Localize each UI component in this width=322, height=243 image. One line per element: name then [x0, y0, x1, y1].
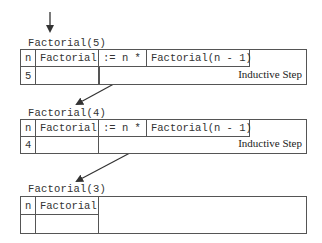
- n-value-cell: [20, 214, 36, 234]
- activation-frame: n 4 Factorial := n * Factorial(n - 1) In…: [20, 119, 307, 154]
- activation-frame: n Factorial: [20, 196, 307, 234]
- step-label: Inductive Step: [238, 68, 302, 80]
- factorial-header-cell: Factorial: [35, 196, 99, 215]
- factorial-value-cell: [35, 136, 99, 154]
- factorial-value-cell: [35, 66, 99, 85]
- factorial-header-cell: Factorial: [35, 49, 99, 67]
- n-value-cell: 4: [20, 136, 36, 154]
- factorial-header-cell: Factorial: [35, 119, 99, 137]
- n-header-cell: n: [20, 119, 36, 137]
- assign-cell: := n *: [98, 119, 147, 137]
- divider: [98, 66, 100, 85]
- frame-label: Factorial(4): [28, 107, 106, 119]
- frame-label: Factorial(5): [28, 37, 106, 49]
- factorial-value-cell: [35, 214, 99, 234]
- assign-cell: := n *: [98, 49, 147, 67]
- activation-frame: n 5 Factorial := n * Factorial(n - 1) In…: [20, 49, 307, 85]
- n-header-cell: n: [20, 196, 36, 215]
- n-header-cell: n: [20, 49, 36, 67]
- recursive-call-cell: Factorial(n - 1): [146, 49, 250, 67]
- recursive-call-cell: Factorial(n - 1): [146, 119, 250, 137]
- n-value-cell: 5: [20, 66, 36, 85]
- step-label: Inductive Step: [238, 137, 302, 149]
- frame-label: Factorial(3): [28, 183, 106, 195]
